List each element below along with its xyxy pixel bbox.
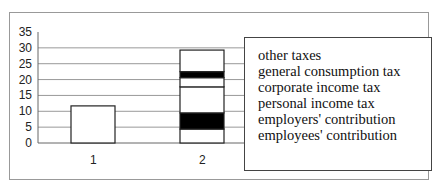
bar-segment [71, 106, 115, 143]
bar-segment [180, 72, 224, 78]
legend: other taxes general consumption tax corp… [244, 37, 432, 171]
legend-item-general-consumption-tax: general consumption tax [258, 63, 431, 79]
legend-item-other-taxes: other taxes [258, 47, 431, 63]
legend-item-employees-contribution: employees' contribution [258, 127, 431, 143]
bar-segment [180, 113, 224, 129]
x-tick-label: 2 [199, 153, 206, 167]
y-tick-label: 0 [6, 137, 32, 149]
y-tick-label: 30 [6, 42, 32, 54]
y-tick-label: 25 [6, 58, 32, 70]
bar-segment [180, 87, 224, 113]
legend-item-personal-income-tax: personal income tax [258, 95, 431, 111]
y-tick-label: 5 [6, 121, 32, 133]
bar-segment [180, 78, 224, 87]
legend-item-corporate-income-tax: corporate income tax [258, 79, 431, 95]
y-tick-label: 20 [6, 74, 32, 86]
legend-item-employers-contribution: employers' contribution [258, 111, 431, 127]
y-tick-label: 35 [6, 26, 32, 38]
y-tick-label: 10 [6, 105, 32, 117]
y-tick-label: 15 [6, 89, 32, 101]
bar-segment [180, 129, 224, 143]
x-tick-label: 1 [90, 153, 97, 167]
bar-segment [180, 50, 224, 72]
